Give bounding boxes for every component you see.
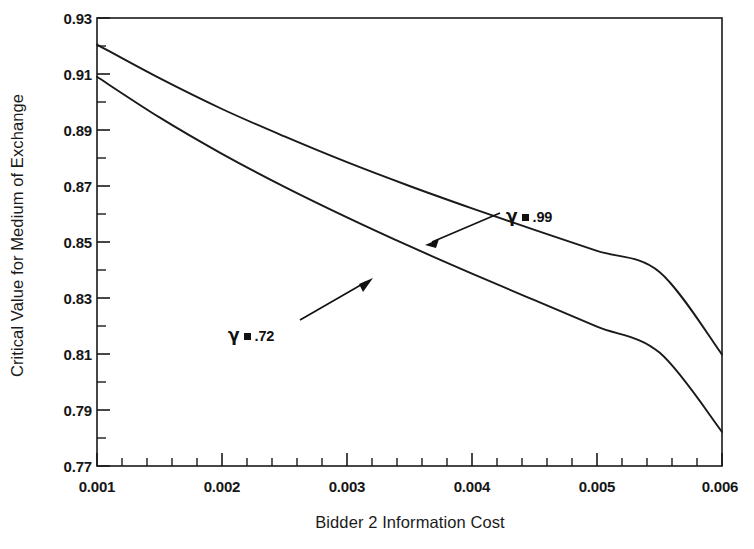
gamma-symbol: γ [506,206,518,226]
arrowhead-gamma-099 [425,239,439,248]
equals-glyph [522,214,529,221]
leader-line-gamma-099 [432,213,500,242]
plot-canvas [0,0,754,549]
gamma-value: .99 [533,209,553,225]
arrowhead-gamma-072 [359,278,373,292]
equals-glyph [244,333,251,340]
annotation-leaders [300,213,500,320]
curve-gamma-072 [97,77,722,432]
leader-line-gamma-072 [300,282,366,320]
gamma-symbol: γ [228,325,240,345]
x-axis-ticks [97,453,722,466]
curve-gamma-099 [97,45,722,355]
gamma-value: .72 [255,328,275,344]
data-curves [97,45,722,432]
chart-figure: Critical Value for Medium of Exchange 0.… [0,0,754,549]
plot-frame [97,18,722,466]
annotation-gamma-099: γ.99 [506,206,552,226]
annotation-gamma-072: γ.72 [228,325,274,345]
